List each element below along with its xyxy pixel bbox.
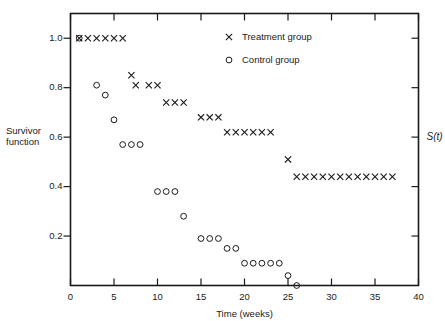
x-tick-label: 15 <box>191 291 211 302</box>
x-tick-label: 10 <box>148 291 168 302</box>
x-tick-label: 35 <box>365 291 385 302</box>
marker-circle <box>216 236 222 242</box>
marker-circle <box>137 142 143 148</box>
survivor-function-chart: Survivor function S(t) Time (weeks) Trea… <box>0 0 445 321</box>
legend-label-treatment: Treatment group <box>242 31 312 42</box>
marker-circle <box>259 260 265 266</box>
marker-circle <box>233 246 239 252</box>
y-tick-label: 0.4 <box>33 180 63 191</box>
axis-ticks <box>64 14 419 286</box>
x-tick-label: 30 <box>322 291 342 302</box>
marker-circle <box>111 117 117 123</box>
y-tick-label: 1.0 <box>33 32 63 43</box>
marker-circle <box>181 213 187 219</box>
marker-circle <box>224 246 230 252</box>
x-tick-label: 5 <box>104 291 124 302</box>
marker-circle <box>268 260 274 266</box>
x-tick-label: 20 <box>235 291 255 302</box>
x-tick-label: 0 <box>61 291 81 302</box>
marker-circle <box>242 260 248 266</box>
y-tick-label: 0.6 <box>33 131 63 142</box>
y-tick-label: 0.8 <box>33 81 63 92</box>
marker-circle <box>172 189 178 195</box>
x-axis-label: Time (weeks) <box>0 308 445 319</box>
x-tick-label: 40 <box>409 291 429 302</box>
x-tick-label: 25 <box>278 291 298 302</box>
marker-circle <box>285 273 291 279</box>
y-tick-label: 0.2 <box>33 230 63 241</box>
legend-label-control: Control group <box>242 54 300 65</box>
marker-circle <box>120 142 126 148</box>
legend-markers <box>226 34 232 63</box>
marker-circle <box>163 189 169 195</box>
marker-circle <box>102 92 108 98</box>
series-treatment-group <box>76 35 395 180</box>
y-axis-label-right: S(t) <box>427 131 443 142</box>
marker-circle <box>226 57 232 63</box>
marker-circle <box>129 142 135 148</box>
plot-canvas <box>0 0 445 321</box>
marker-circle <box>198 236 204 242</box>
series-control-group <box>76 35 299 288</box>
marker-circle <box>155 189 161 195</box>
marker-circle <box>276 260 282 266</box>
marker-circle <box>94 82 100 88</box>
marker-circle <box>250 260 256 266</box>
marker-circle <box>207 236 213 242</box>
